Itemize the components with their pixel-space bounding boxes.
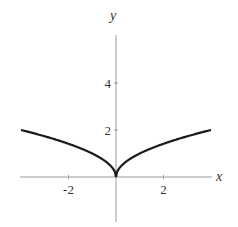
chart: -2224 x y [0,0,238,227]
x-tick-label: 2 [160,182,167,197]
x-axis-label: x [215,169,223,184]
y-axis-label: y [108,8,117,23]
x-tick-label: -2 [63,182,74,197]
y-tick-label: 2 [105,123,112,138]
y-tick-label: 4 [105,76,112,91]
ticks: -2224 [63,76,167,197]
